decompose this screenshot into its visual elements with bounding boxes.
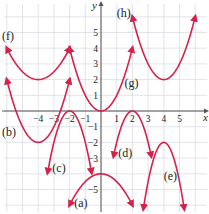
x-tick-label: 3 <box>146 114 151 124</box>
curve-label-d: (d) <box>118 146 132 160</box>
curve-label-f: (f) <box>2 29 14 43</box>
curve-label-g: (g) <box>125 76 139 90</box>
x-tick-label: 5 <box>177 114 182 124</box>
x-tick-label: 2 <box>130 114 135 124</box>
x-axis-label: x <box>202 111 208 123</box>
y-tick-label: 3 <box>93 59 98 69</box>
y-tick-label: 2 <box>93 75 98 85</box>
curve-label-b: (b) <box>2 125 16 139</box>
y-axis-label: y <box>91 0 97 11</box>
x-tick-label: −2 <box>65 114 75 124</box>
curve-label-a: (a) <box>74 196 87 210</box>
parabola-graph: xy−4−3−2−11234554321−1−2−3−5(a)(b)(c)(d)… <box>0 0 209 214</box>
curve-label-h: (h) <box>117 6 131 20</box>
y-tick-label: 4 <box>93 44 98 54</box>
curve-label-c: (c) <box>52 161 65 175</box>
x-tick-label: −4 <box>33 114 43 124</box>
curve-label-e: (e) <box>164 169 177 183</box>
y-tick-label: 1 <box>93 91 98 101</box>
y-tick-label: −1 <box>88 122 98 132</box>
x-tick-label: 4 <box>161 114 166 124</box>
y-tick-label: −5 <box>88 185 98 195</box>
coordinate-plane: xy−4−3−2−11234554321−1−2−3−5(a)(b)(c)(d)… <box>0 0 209 214</box>
x-tick-label: 1 <box>114 114 119 124</box>
y-tick-label: −2 <box>88 138 98 148</box>
y-tick-label: 5 <box>93 28 98 38</box>
y-axis-arrow-icon <box>99 1 104 6</box>
